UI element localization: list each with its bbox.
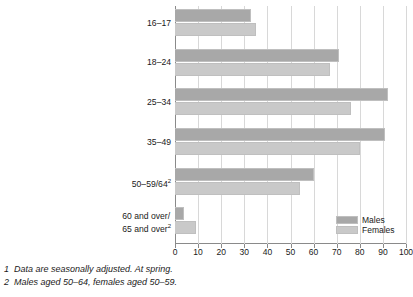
x-axis-tick-label: 30 bbox=[240, 247, 249, 257]
category-label-line: 60 and over/ bbox=[122, 211, 171, 221]
category-label: 16–17 bbox=[147, 18, 171, 28]
bar-females bbox=[175, 63, 330, 76]
footnote-text: Data are seasonally adjusted. At spring. bbox=[14, 264, 173, 274]
x-axis-tick-label: 40 bbox=[263, 247, 272, 257]
category-label: 35–49 bbox=[147, 137, 171, 147]
bar-group bbox=[175, 9, 406, 36]
category-label-line: 50–59/642 bbox=[132, 176, 171, 189]
bar-males bbox=[175, 207, 184, 220]
x-axis-tick-label: 80 bbox=[355, 247, 364, 257]
footnote-number: 2 bbox=[4, 276, 14, 289]
x-axis-tick-label: 10 bbox=[193, 247, 202, 257]
footnote-number: 1 bbox=[4, 263, 14, 276]
legend-swatch-females bbox=[336, 226, 358, 234]
legend: Males Females bbox=[336, 215, 395, 235]
footnotes: 1Data are seasonally adjusted. At spring… bbox=[4, 263, 177, 289]
legend-item-males: Males bbox=[336, 215, 395, 225]
legend-item-females: Females bbox=[336, 225, 395, 235]
footnote: 2Males aged 50–64, females aged 50–59. bbox=[4, 276, 177, 289]
gridline bbox=[406, 6, 407, 244]
category-label-line: 16–17 bbox=[147, 18, 171, 28]
bar-males bbox=[175, 88, 388, 101]
bar-males bbox=[175, 128, 385, 141]
legend-label-females: Females bbox=[362, 225, 395, 235]
category-label: 18–24 bbox=[147, 57, 171, 67]
x-axis-tick-label: 20 bbox=[216, 247, 225, 257]
category-label: 25–34 bbox=[147, 97, 171, 107]
category-label-line: 35–49 bbox=[147, 137, 171, 147]
category-label-line: 25–34 bbox=[147, 97, 171, 107]
plot-area bbox=[175, 6, 406, 244]
bar-group bbox=[175, 49, 406, 76]
x-axis-tick-label: 100 bbox=[399, 247, 413, 257]
bar-group bbox=[175, 168, 406, 195]
x-axis-tick-label: 90 bbox=[378, 247, 387, 257]
category-label: 50–59/642 bbox=[132, 176, 171, 189]
bar-males bbox=[175, 9, 251, 22]
x-axis-tick-label: 60 bbox=[309, 247, 318, 257]
footnote: 1Data are seasonally adjusted. At spring… bbox=[4, 263, 177, 276]
bar-males bbox=[175, 49, 339, 62]
bar-females bbox=[175, 23, 256, 36]
footnote-text: Males aged 50–64, females aged 50–59. bbox=[14, 277, 177, 287]
category-label-line: 65 and over2 bbox=[122, 221, 171, 234]
x-axis-tick-label: 70 bbox=[332, 247, 341, 257]
category-label-line: 18–24 bbox=[147, 57, 171, 67]
bar-males bbox=[175, 168, 314, 181]
category-label: 60 and over/65 and over2 bbox=[122, 211, 171, 234]
bar-females bbox=[175, 182, 300, 195]
bar-females bbox=[175, 221, 196, 234]
x-axis-tick-label: 0 bbox=[173, 247, 178, 257]
bar-group bbox=[175, 88, 406, 115]
legend-label-males: Males bbox=[362, 215, 385, 225]
category-label-superscript: 2 bbox=[168, 223, 171, 229]
legend-swatch-males bbox=[336, 216, 358, 224]
x-axis-tick-label: 50 bbox=[286, 247, 295, 257]
bar-group bbox=[175, 128, 406, 155]
category-label-superscript: 2 bbox=[168, 178, 171, 184]
bar-females bbox=[175, 142, 360, 155]
bar-females bbox=[175, 102, 351, 115]
